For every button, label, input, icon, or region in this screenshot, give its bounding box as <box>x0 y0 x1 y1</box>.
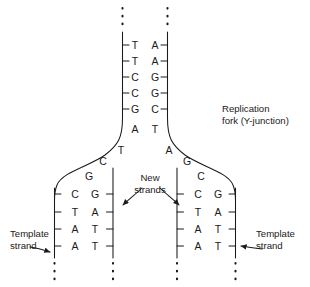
base-parent-5-right: C <box>149 104 161 115</box>
template-strand-label-left-line2: strand <box>10 240 49 252</box>
template-strand-label-left-line1: Template <box>10 228 49 240</box>
base-right-duplex-4-new: A <box>192 241 204 252</box>
base-right-duplex-3-new: A <box>192 224 204 235</box>
right-duplex-rungs <box>177 194 236 246</box>
base-fork-left-1: T <box>115 145 127 156</box>
base-parent-2-left: T <box>129 56 141 67</box>
base-fork-right-3: C <box>195 171 207 182</box>
replication-fork-label-line2: fork (Y-junction) <box>222 115 289 127</box>
base-right-duplex-1-template: G <box>212 189 224 200</box>
template-strand-label-right: Template strand <box>256 228 295 251</box>
base-left-duplex-4-new: T <box>89 241 101 252</box>
template-strand-label-right-line2: strand <box>256 240 295 252</box>
base-right-duplex-3-template: T <box>212 224 224 235</box>
base-fork-right-1: A <box>163 145 175 156</box>
base-left-duplex-4-template: A <box>69 241 81 252</box>
base-right-duplex-4-template: T <box>212 241 224 252</box>
fork-curve-left <box>55 118 123 200</box>
base-parent-1-right: A <box>149 40 161 51</box>
base-right-duplex-2-new: T <box>192 207 204 218</box>
template-strand-label-right-line1: Template <box>256 228 295 240</box>
base-fork-left-2: C <box>97 156 109 167</box>
left-duplex-rungs <box>55 194 114 246</box>
base-left-duplex-2-template: T <box>69 207 81 218</box>
base-parent-6-left: A <box>129 124 141 135</box>
base-parent-4-left: C <box>129 88 141 99</box>
base-left-duplex-2-new: A <box>89 207 101 218</box>
base-left-duplex-3-template: A <box>69 224 81 235</box>
base-parent-2-right: A <box>149 56 161 67</box>
base-parent-1-left: T <box>129 40 141 51</box>
new-strands-label: New strands <box>123 172 177 195</box>
new-strands-label-line2: strands <box>123 184 177 196</box>
base-right-duplex-1-new: C <box>192 189 204 200</box>
base-parent-3-left: C <box>129 72 141 83</box>
base-parent-6-right: T <box>149 124 161 135</box>
base-right-duplex-2-template: A <box>212 207 224 218</box>
base-left-duplex-3-new: T <box>89 224 101 235</box>
replication-fork-label: Replication fork (Y-junction) <box>222 103 289 126</box>
base-fork-right-2: G <box>181 156 193 167</box>
base-left-duplex-1-template: C <box>69 189 81 200</box>
new-strands-label-line1: New <box>123 172 177 184</box>
base-parent-4-right: G <box>149 88 161 99</box>
base-parent-5-left: G <box>129 104 141 115</box>
base-parent-3-right: G <box>149 72 161 83</box>
template-strand-label-left: Template strand <box>10 228 49 251</box>
base-fork-left-3: G <box>83 171 95 182</box>
replication-fork-label-line1: Replication <box>222 103 289 115</box>
base-left-duplex-1-new: G <box>89 189 101 200</box>
dna-replication-fork-diagram: T A T A C G C G G C A T T C G A G C C G … <box>0 0 310 287</box>
